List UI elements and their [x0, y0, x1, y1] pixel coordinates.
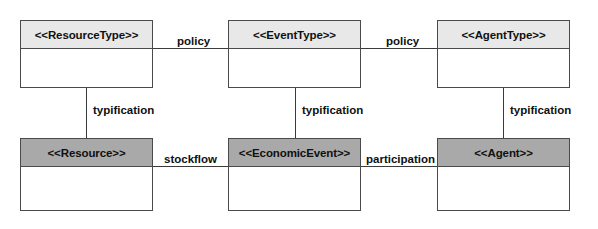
uml-class-economic-event-header: <<EconomicEvent>>: [229, 139, 360, 167]
uml-class-agent-label: <<Agent>>: [474, 147, 533, 159]
edge-label-typification-right: typification: [507, 103, 574, 117]
uml-class-resource-label: <<Resource>>: [47, 147, 125, 159]
uml-class-economic-event-label: <<EconomicEvent>>: [239, 147, 350, 159]
uml-class-resource[interactable]: <<Resource>>: [20, 138, 153, 211]
edge-line-typification-left: [86, 84, 87, 142]
uml-class-economic-event-body: [229, 167, 360, 210]
edge-label-stockflow: stockflow: [161, 152, 220, 166]
uml-class-resource-header: <<Resource>>: [21, 139, 152, 167]
edge-line-participation: [359, 166, 441, 167]
uml-class-agent-type-label: <<AgentType>>: [461, 29, 545, 41]
uml-class-event-type-header: <<EventType>>: [229, 21, 360, 49]
edge-label-policy-left: policy: [174, 34, 213, 48]
uml-class-economic-event[interactable]: <<EconomicEvent>>: [228, 138, 361, 211]
edge-line-policy-right: [359, 48, 441, 49]
uml-class-agent-header: <<Agent>>: [438, 139, 569, 167]
uml-class-agent[interactable]: <<Agent>>: [437, 138, 570, 211]
uml-class-agent-type[interactable]: <<AgentType>>: [437, 20, 570, 88]
uml-class-agent-type-body: [438, 49, 569, 87]
edge-line-typification-center: [295, 84, 296, 142]
uml-class-resource-type[interactable]: <<ResourceType>>: [20, 20, 153, 88]
uml-class-event-type-body: [229, 49, 360, 87]
uml-class-resource-type-body: [21, 49, 152, 87]
uml-class-diagram: <<ResourceType>> <<EventType>> <<AgentTy…: [0, 0, 598, 229]
edge-label-policy-right: policy: [383, 34, 422, 48]
edge-line-stockflow: [150, 166, 232, 167]
uml-class-event-type-label: <<EventType>>: [253, 29, 336, 41]
uml-class-resource-type-label: <<ResourceType>>: [35, 29, 139, 41]
uml-class-resource-type-header: <<ResourceType>>: [21, 21, 152, 49]
edge-label-typification-left: typification: [90, 103, 157, 117]
uml-class-resource-body: [21, 167, 152, 210]
edge-label-participation: participation: [363, 152, 438, 166]
edge-line-typification-right: [503, 84, 504, 142]
edge-line-policy-left: [150, 48, 232, 49]
uml-class-agent-type-header: <<AgentType>>: [438, 21, 569, 49]
uml-class-agent-body: [438, 167, 569, 210]
edge-label-typification-center: typification: [299, 103, 366, 117]
uml-class-event-type[interactable]: <<EventType>>: [228, 20, 361, 88]
